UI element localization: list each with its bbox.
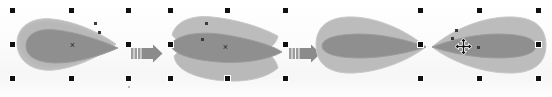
selection-handle-e[interactable] <box>283 42 288 47</box>
object-center-marker: × <box>222 44 229 51</box>
selection-handle-sw[interactable] <box>10 76 15 81</box>
selection-handle-w[interactable] <box>10 42 15 47</box>
selection-handle-sw[interactable] <box>168 76 173 81</box>
path-node-marker[interactable] <box>455 29 458 32</box>
selection-handle-w[interactable] <box>418 42 423 47</box>
selection-handle-n[interactable] <box>225 8 230 13</box>
selection-handle-sw[interactable] <box>418 76 423 81</box>
stage-3-canvas[interactable] <box>322 0 552 97</box>
selection-handle-s[interactable] <box>69 76 74 81</box>
path-node-marker[interactable] <box>94 22 97 25</box>
path-node-marker[interactable] <box>98 31 101 34</box>
selection-handle-nw[interactable] <box>418 8 423 13</box>
stage-2-canvas[interactable]: × <box>164 0 290 97</box>
selection-handle-s[interactable] <box>225 76 230 81</box>
selection-handle-ne[interactable] <box>126 8 131 13</box>
stage-3-shapes[interactable] <box>322 0 552 97</box>
path-node-marker[interactable] <box>205 22 208 25</box>
selection-handle-ne[interactable] <box>536 8 541 13</box>
selection-handle-n[interactable] <box>477 8 482 13</box>
selection-handle-se[interactable] <box>283 76 288 81</box>
path-node-marker[interactable] <box>201 38 204 41</box>
selection-handle-nw[interactable] <box>168 8 173 13</box>
selection-handle-se[interactable] <box>536 76 541 81</box>
screenshot-root: × × <box>0 0 552 97</box>
arrow-right-icon <box>131 44 164 63</box>
stage-1-canvas[interactable]: × <box>0 0 132 97</box>
selection-handle-s[interactable] <box>477 76 482 81</box>
selection-handle-nw[interactable] <box>10 8 15 13</box>
step-arrow-1 <box>131 44 164 67</box>
canvas-speck <box>128 86 130 88</box>
selection-handle-w[interactable] <box>168 42 173 47</box>
path-node-marker[interactable] <box>451 37 454 40</box>
selection-handle-n[interactable] <box>69 8 74 13</box>
selection-handle-e[interactable] <box>536 42 541 47</box>
selection-handle-ne[interactable] <box>283 8 288 13</box>
move-cursor-icon[interactable] <box>455 38 472 55</box>
object-center-marker: × <box>69 42 76 49</box>
path-node-marker[interactable] <box>477 46 480 49</box>
stage-1-shapes[interactable] <box>0 0 132 97</box>
selection-handle-se[interactable] <box>126 76 131 81</box>
move-cursor[interactable] <box>455 38 472 55</box>
